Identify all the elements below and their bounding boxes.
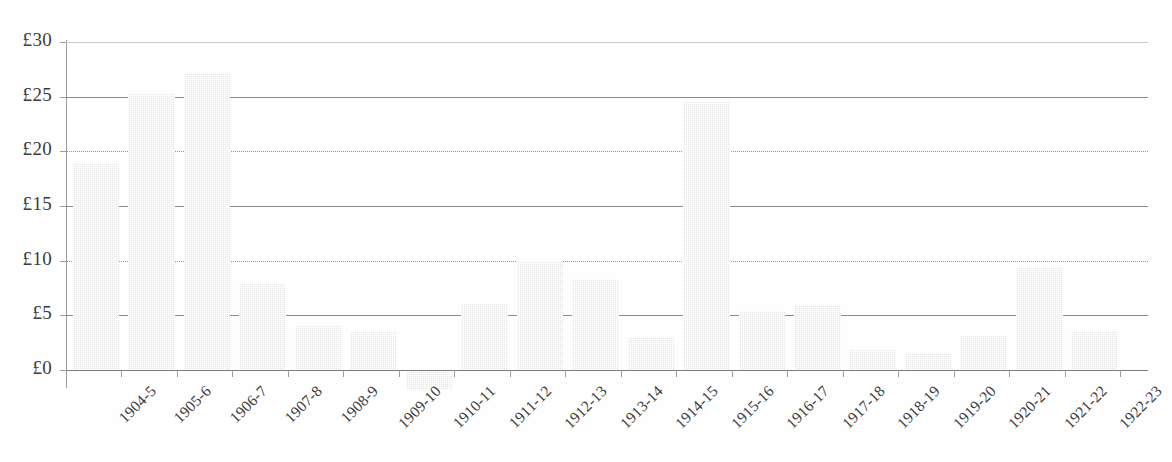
x-axis-label: 1912-13 <box>561 382 611 432</box>
x-axis-label: 1916-17 <box>783 382 833 432</box>
x-axis-label: 1917-18 <box>838 382 888 432</box>
x-tick-mark <box>954 370 955 377</box>
x-axis-label: 1913-14 <box>616 382 666 432</box>
x-axis-label: 1918-19 <box>894 382 944 432</box>
x-tick-mark <box>621 370 622 377</box>
y-tick-label: £10 <box>0 248 52 270</box>
bar <box>794 306 841 371</box>
x-tick-mark <box>177 370 178 377</box>
bar <box>461 304 508 370</box>
x-tick-mark <box>843 370 844 377</box>
x-axis-label: 1919-20 <box>949 382 999 432</box>
x-axis-label: 1905-6 <box>170 382 215 427</box>
x-axis-label: 1907-8 <box>281 382 326 427</box>
bar <box>849 350 896 370</box>
x-axis-label: 1904-5 <box>115 382 160 427</box>
x-tick-mark <box>288 370 289 377</box>
x-axis-label: 1921-22 <box>1060 382 1110 432</box>
x-tick-mark <box>787 370 788 377</box>
y-tick-label: £25 <box>0 84 52 106</box>
y-tick-label: £30 <box>0 29 52 51</box>
x-tick-mark <box>1120 370 1121 377</box>
plot-area <box>66 42 1148 370</box>
bar <box>683 101 730 370</box>
x-tick-mark <box>66 370 67 377</box>
x-tick-mark <box>1009 370 1010 377</box>
bar <box>350 331 397 370</box>
x-axis-label: 1911-12 <box>505 382 555 432</box>
bar <box>239 284 286 370</box>
bar <box>295 326 342 370</box>
gridline-gbp30 <box>66 42 1148 43</box>
x-tick-mark <box>399 370 400 377</box>
bar <box>73 163 120 370</box>
x-axis-label: 1915-16 <box>727 382 777 432</box>
bar <box>1071 331 1118 370</box>
x-tick-mark <box>898 370 899 377</box>
x-axis-label: 1910-11 <box>450 382 500 432</box>
x-axis-label: 1914-15 <box>672 382 722 432</box>
x-tick-mark <box>121 370 122 377</box>
x-axis-ticks <box>66 370 1148 378</box>
bar <box>517 261 564 370</box>
bar <box>128 94 175 370</box>
bar <box>1016 268 1063 370</box>
x-tick-mark <box>1065 370 1066 377</box>
bar-chart: £0£5£10£15£20£25£30 1904-51905-61906-719… <box>0 0 1172 462</box>
y-tick-label: £15 <box>0 193 52 215</box>
x-tick-mark <box>232 370 233 377</box>
x-tick-mark <box>343 370 344 377</box>
bar <box>739 311 786 370</box>
bar <box>628 337 675 370</box>
y-tick-label: £0 <box>0 357 52 379</box>
x-tick-mark <box>676 370 677 377</box>
y-tick-label: £5 <box>0 302 52 324</box>
x-axis-label: 1908-9 <box>337 382 382 427</box>
bar <box>960 336 1007 370</box>
y-axis-labels: £0£5£10£15£20£25£30 <box>0 0 58 462</box>
x-tick-mark <box>732 370 733 377</box>
y-tick-label: £20 <box>0 138 52 160</box>
bar <box>572 279 619 370</box>
x-axis-label: 1920-21 <box>1005 382 1055 432</box>
x-axis-labels: 1904-51905-61906-71907-81908-91909-10191… <box>66 382 1148 462</box>
x-axis-label: 1922-23 <box>1116 382 1166 432</box>
x-tick-mark <box>454 370 455 377</box>
x-axis-label: 1909-10 <box>395 382 445 432</box>
x-tick-mark <box>510 370 511 377</box>
bar <box>905 354 952 370</box>
bar <box>184 73 231 370</box>
x-axis-label: 1906-7 <box>226 382 271 427</box>
x-tick-mark <box>565 370 566 377</box>
